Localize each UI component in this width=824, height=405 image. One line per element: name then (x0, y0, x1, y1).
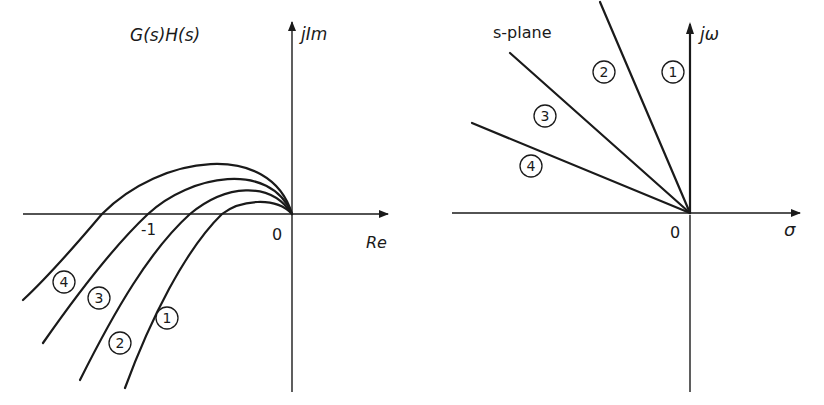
j-omega-arrow-icon (686, 22, 694, 34)
sigma-label: σ (784, 219, 796, 240)
ray-label-3: 3 (534, 105, 556, 127)
imaginary-axis-label: jIm (299, 24, 327, 44)
locus-curve-2 (80, 190, 292, 380)
svg-text:3: 3 (541, 108, 550, 124)
right-panel-s-plane: s-plane jω σ 0 1234 (452, 2, 800, 392)
ray-label-4: 4 (520, 155, 542, 177)
svg-text:2: 2 (600, 64, 609, 80)
svg-text:2: 2 (116, 335, 125, 351)
tick-label-minus-one: -1 (141, 221, 156, 239)
svg-text:1: 1 (163, 310, 172, 326)
svg-text:3: 3 (95, 290, 104, 306)
ray-label-1: 1 (662, 61, 684, 83)
origin-label-s-plane: 0 (670, 223, 680, 242)
curve-label-4: 4 (53, 271, 75, 293)
svg-text:1: 1 (669, 64, 678, 80)
ray-label-2: 2 (593, 61, 615, 83)
root-figure: G(s)H(s) jIm Re 0 -1 4321 s-plane jω σ 0… (0, 0, 824, 405)
curve-label-3: 3 (88, 287, 110, 309)
j-omega-label: jω (698, 24, 719, 44)
s-plane-title: s-plane (493, 23, 552, 42)
svg-text:4: 4 (527, 158, 536, 174)
plot-title-gh: G(s)H(s) (130, 25, 200, 45)
svg-text:4: 4 (60, 274, 69, 290)
real-axis-label: Re (366, 233, 387, 252)
origin-label: 0 (272, 225, 282, 244)
curve-label-2: 2 (109, 332, 131, 354)
left-panel-gh-plot: G(s)H(s) jIm Re 0 -1 4321 (23, 22, 388, 392)
ray-number-labels: 1234 (520, 61, 684, 177)
curve-label-1: 1 (156, 307, 178, 329)
